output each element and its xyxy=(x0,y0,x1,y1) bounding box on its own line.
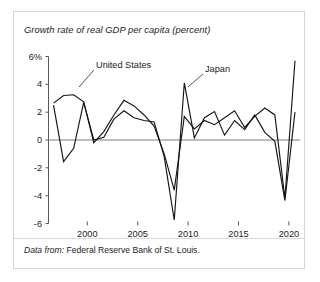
figure-container: Growth rate of real GDP per capita (perc… xyxy=(0,0,320,282)
y-tick-label-0: 0 xyxy=(37,135,42,145)
y-tick-label-4: 4 xyxy=(37,79,42,89)
leader-line-united-states xyxy=(79,70,94,87)
series-line-japan xyxy=(54,83,295,220)
series-annotation-japan: Japan xyxy=(205,64,230,74)
source-label: Data from: xyxy=(24,245,64,255)
y-tick-label-6: 6% xyxy=(29,52,42,62)
y-tick-label-neg4: -4 xyxy=(34,191,42,201)
y-tick-label-neg2: -2 xyxy=(34,163,42,173)
x-axis-ticks xyxy=(87,222,289,226)
chart-plot-area: 6% 4 2 0 -2 -4 -6 2000 2005 2010 2015 20… xyxy=(0,0,320,282)
source-divider xyxy=(14,238,304,239)
y-tick-label-2: 2 xyxy=(37,107,42,117)
y-tick-label-neg6: -6 xyxy=(34,219,42,229)
series-line-united-states xyxy=(54,61,295,199)
source-note: Data from: Federal Reserve Bank of St. L… xyxy=(24,245,200,255)
source-value: Federal Reserve Bank of St. Louis. xyxy=(67,245,200,255)
series-annotation-united-states: United States xyxy=(96,60,152,70)
leader-line-japan xyxy=(188,74,203,87)
